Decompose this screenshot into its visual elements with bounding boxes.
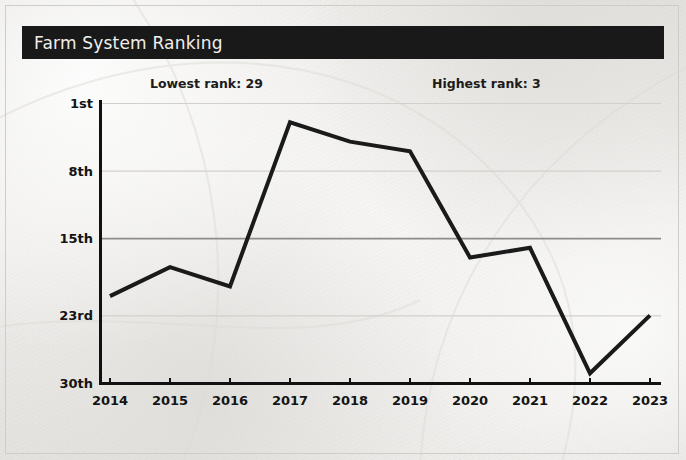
- y-tick-label-8th: 8th: [68, 164, 93, 179]
- x-tick-label-2016: 2016: [212, 393, 248, 408]
- x-tick-label-2014: 2014: [92, 393, 128, 408]
- gridlines: [101, 104, 661, 316]
- chart-card: Farm System Ranking Lowest rank: 29 High…: [0, 0, 686, 460]
- x-axis-tick-labels: 2014201520162017201820192020202120222023: [92, 393, 668, 408]
- y-tick-label-1st: 1st: [70, 96, 93, 111]
- y-axis-tick-labels: 1st8th15th23rd30th: [59, 96, 93, 391]
- y-tick-label-30th: 30th: [59, 376, 93, 391]
- x-tick-label-2020: 2020: [452, 393, 488, 408]
- x-tick-label-2015: 2015: [152, 393, 188, 408]
- y-tick-label-15th: 15th: [59, 231, 93, 246]
- x-tick-label-2023: 2023: [632, 393, 668, 408]
- y-tick-label-23rd: 23rd: [59, 308, 93, 323]
- x-tick-label-2021: 2021: [512, 393, 548, 408]
- x-tick-label-2019: 2019: [392, 393, 428, 408]
- data-series-line: [110, 122, 650, 373]
- x-tick-label-2018: 2018: [332, 393, 368, 408]
- x-tick-label-2017: 2017: [272, 393, 308, 408]
- x-tick-label-2022: 2022: [572, 393, 608, 408]
- ranking-line-chart: 1st8th15th23rd30th 201420152016201720182…: [0, 0, 686, 460]
